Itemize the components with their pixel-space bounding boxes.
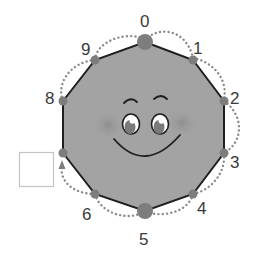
vertex-2-dot: [220, 97, 229, 106]
vertex-9-dot: [91, 56, 100, 65]
eye-left: [123, 114, 140, 134]
decagon-diagram: 0 1 2 3 4 5 6 8 9: [0, 0, 261, 256]
label-1: 1: [193, 39, 202, 58]
arrow-up-icon: [59, 160, 66, 169]
label-6: 6: [82, 205, 91, 224]
label-9: 9: [81, 40, 90, 59]
label-4: 4: [197, 199, 206, 218]
eye-right: [152, 114, 169, 134]
cheek-right: [165, 108, 199, 138]
label-2: 2: [230, 89, 239, 108]
vertex-7-dot: [59, 149, 68, 158]
label-0: 0: [140, 12, 149, 31]
arc-2-3: [224, 101, 239, 153]
vertex-6-dot: [91, 190, 100, 199]
vertex-4-dot: [189, 190, 198, 199]
answer-box[interactable]: [20, 153, 54, 187]
vertex-8-dot: [59, 97, 68, 106]
label-8: 8: [45, 89, 54, 108]
vertex-5-dot: [137, 203, 153, 219]
label-5: 5: [139, 230, 148, 249]
vertex-0-dot: [137, 34, 153, 50]
decagon-shape: [63, 42, 224, 211]
cheek-left: [91, 110, 125, 140]
label-3: 3: [230, 153, 239, 172]
vertex-3-dot: [220, 149, 229, 158]
